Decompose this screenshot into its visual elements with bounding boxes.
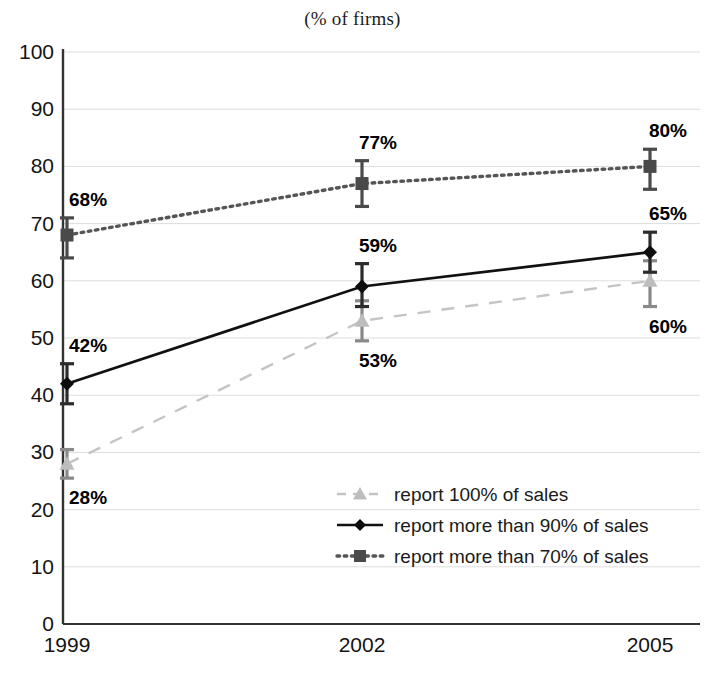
legend-entry-label: report 100% of sales xyxy=(394,484,568,505)
series-line xyxy=(67,166,650,235)
data-point-square xyxy=(644,160,657,173)
data-label: 60% xyxy=(649,316,687,337)
chart-legend: report 100% of salesreport more than 90%… xyxy=(337,484,649,567)
data-label: 77% xyxy=(359,132,397,153)
y-tick-label: 10 xyxy=(31,555,54,578)
data-point-triangle xyxy=(355,313,370,327)
data-label: 42% xyxy=(69,335,107,356)
y-axis-tick-labels: 0102030405060708090100 xyxy=(19,40,54,635)
data-point-triangle xyxy=(60,456,75,470)
x-tick-label: 2002 xyxy=(339,633,386,656)
series-line xyxy=(67,281,650,464)
data-label: 59% xyxy=(359,235,397,256)
y-tick-label: 70 xyxy=(31,212,54,235)
legend-entry-label: report more than 70% of sales xyxy=(394,546,649,567)
data-point-triangle xyxy=(643,273,658,287)
data-point-square xyxy=(61,229,74,242)
y-tick-label: 40 xyxy=(31,383,54,406)
data-label: 80% xyxy=(649,120,687,141)
x-tick-label: 1999 xyxy=(44,633,91,656)
data-label: 53% xyxy=(359,350,397,371)
chart-container: (% of firms) 0102030405060708090100 1999… xyxy=(0,0,705,676)
y-tick-label: 100 xyxy=(19,40,54,63)
y-tick-label: 90 xyxy=(31,97,54,120)
x-tick-label: 2005 xyxy=(627,633,674,656)
gridlines xyxy=(63,52,700,567)
y-tick-label: 30 xyxy=(31,440,54,463)
data-label: 28% xyxy=(69,487,107,508)
y-tick-label: 50 xyxy=(31,326,54,349)
data-point-square xyxy=(356,177,369,190)
legend-marker-diamond xyxy=(354,519,366,531)
y-tick-label: 20 xyxy=(31,498,54,521)
data-label: 65% xyxy=(649,203,687,224)
x-axis-tick-labels: 199920022005 xyxy=(44,633,674,656)
data-value-labels: 28%53%60%42%59%65%68%77%80% xyxy=(69,120,687,508)
y-tick-label: 80 xyxy=(31,154,54,177)
series-lines xyxy=(67,166,650,463)
error-bars xyxy=(60,149,657,478)
legend-marker-square xyxy=(354,550,366,562)
data-point-diamond xyxy=(643,245,657,259)
line-chart-plot: 0102030405060708090100 199920022005 28%5… xyxy=(0,0,705,676)
y-tick-label: 60 xyxy=(31,269,54,292)
data-point-diamond xyxy=(355,280,369,294)
y-tick-label: 0 xyxy=(42,612,54,635)
legend-entry-label: report more than 90% of sales xyxy=(394,515,649,536)
data-label: 68% xyxy=(69,189,107,210)
